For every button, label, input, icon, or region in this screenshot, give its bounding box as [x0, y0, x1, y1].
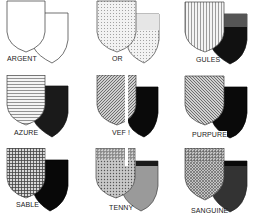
- tincture-label: ARGENT: [7, 55, 37, 62]
- tincture-azure: AZURE: [0, 75, 84, 149]
- tincture-gules: GULES: [170, 0, 254, 74]
- shield-icon: [0, 148, 84, 223]
- tincture-sable: SABLE: [0, 148, 84, 222]
- shield-icon: [0, 75, 84, 149]
- tincture-or: OR: [85, 0, 169, 74]
- tincture-argent: ARGENT: [0, 0, 84, 74]
- tincture-vert: VEF !: [85, 75, 169, 149]
- shield-icon: [0, 0, 84, 74]
- shield-icon: [85, 0, 169, 74]
- shield-icon: [85, 75, 169, 149]
- tincture-label: OR: [112, 55, 123, 62]
- tincture-tenny: TENNY: [85, 148, 169, 222]
- tincture-sanguine: SANGUINE: [170, 148, 254, 222]
- tincture-label: SABLE: [16, 201, 39, 208]
- tincture-label: PURPURE: [192, 131, 227, 138]
- shield-icon: [85, 148, 169, 223]
- tincture-label: TENNY: [109, 204, 133, 211]
- tincture-label: VEF !: [112, 129, 130, 136]
- tincture-label: SANGUINE: [191, 207, 228, 214]
- tincture-purpure: PURPURE: [170, 75, 254, 149]
- tincture-label: GULES: [196, 56, 220, 63]
- tincture-label: AZURE: [14, 129, 38, 136]
